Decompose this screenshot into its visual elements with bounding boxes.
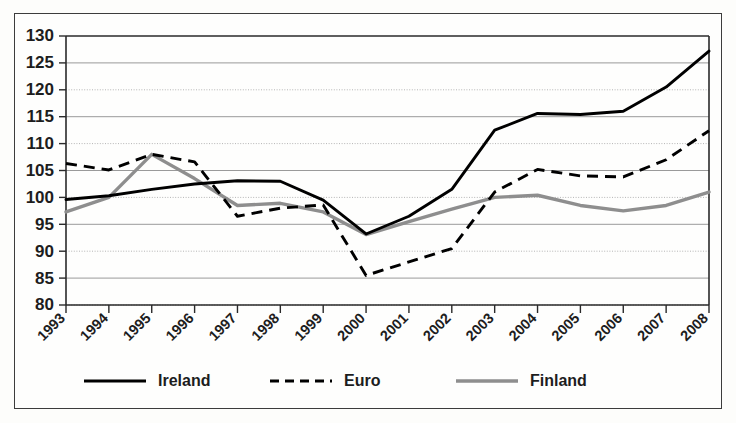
y-tick-label-85: 85 — [35, 269, 54, 288]
x-tick-label-2001: 2001 — [377, 310, 411, 344]
x-tick-label-2005: 2005 — [548, 310, 582, 344]
x-tick-label-2003: 2003 — [463, 310, 497, 344]
line-chart-svg: 8085909510010511011512012513019931994199… — [0, 0, 736, 423]
x-tick-label-2008: 2008 — [677, 310, 711, 344]
x-tick-label-1994: 1994 — [77, 310, 111, 344]
plot-area-wrapper: 8085909510010511011512012513019931994199… — [0, 0, 736, 423]
y-tick-label-90: 90 — [35, 242, 54, 261]
legend-label-euro: Euro — [344, 372, 381, 389]
x-tick-label-2002: 2002 — [420, 310, 454, 344]
legend-label-ireland: Ireland — [158, 372, 210, 389]
x-tick-label-1999: 1999 — [291, 310, 325, 344]
x-tick-label-1998: 1998 — [248, 310, 282, 344]
y-tick-label-115: 115 — [27, 107, 54, 126]
series-line-ireland — [66, 51, 709, 234]
x-tick-label-1996: 1996 — [163, 310, 197, 344]
x-tick-label-2007: 2007 — [634, 310, 668, 344]
y-tick-label-100: 100 — [26, 188, 54, 207]
legend-label-finland: Finland — [530, 372, 587, 389]
y-tick-label-80: 80 — [35, 295, 54, 314]
y-tick-label-105: 105 — [26, 161, 54, 180]
x-tick-label-2006: 2006 — [591, 310, 625, 344]
x-tick-label-1995: 1995 — [120, 310, 154, 344]
y-tick-label-130: 130 — [26, 26, 54, 45]
y-tick-label-125: 125 — [26, 53, 54, 72]
chart-figure: 8085909510010511011512012513019931994199… — [0, 0, 736, 423]
x-tick-label-1993: 1993 — [34, 310, 68, 344]
series-line-euro — [66, 131, 709, 276]
series-line-finland — [66, 154, 709, 234]
y-tick-label-95: 95 — [35, 215, 54, 234]
x-tick-label-2000: 2000 — [334, 310, 368, 344]
y-tick-label-110: 110 — [27, 134, 54, 153]
x-tick-label-1997: 1997 — [205, 310, 239, 344]
x-tick-label-2004: 2004 — [506, 310, 540, 344]
y-tick-label-120: 120 — [26, 80, 54, 99]
